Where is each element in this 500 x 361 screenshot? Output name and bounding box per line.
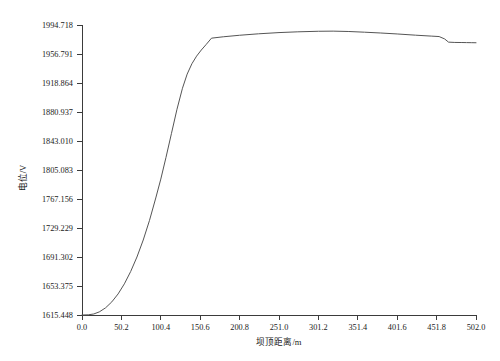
y-axis-tick-marks (77, 25, 82, 315)
y-axis-tick-label: 1956.791 (42, 50, 73, 59)
x-axis-tick-label: 301.2 (309, 323, 328, 332)
chart-page: 1615.4481653.3751691.3021729.2291767.156… (0, 0, 500, 361)
y-axis-tick-label: 1767.156 (42, 195, 73, 204)
x-axis-tick-label: 200.8 (230, 323, 249, 332)
data-series-line (82, 31, 476, 315)
x-axis-tick-label: 150.6 (191, 323, 210, 332)
y-axis-tick-label: 1880.937 (42, 108, 73, 117)
y-axis-tick-label: 1918.864 (42, 79, 74, 88)
y-axis-tick-label: 1843.010 (42, 137, 73, 146)
y-axis-tick-label: 1691.302 (42, 253, 73, 262)
x-axis-tick-label: 351.4 (348, 323, 368, 332)
y-axis-tick-label: 1653.375 (42, 282, 73, 291)
x-axis-tick-labels: 0.050.2100.4150.6200.8251.0301.2351.4401… (77, 323, 486, 332)
x-axis-tick-marks (82, 315, 476, 320)
x-axis-tick-label: 502.0 (467, 323, 486, 332)
y-axis-tick-label: 1994.718 (42, 21, 73, 30)
x-axis-tick-label: 0.0 (77, 323, 87, 332)
x-axis-tick-label: 100.4 (151, 323, 171, 332)
x-axis-title: 坝顶距离/m (256, 336, 301, 347)
y-axis-title: 电位/V (17, 164, 28, 191)
line-chart: 1615.4481653.3751691.3021729.2291767.156… (0, 0, 500, 361)
y-axis-tick-label: 1729.229 (42, 224, 73, 233)
y-axis-tick-label: 1805.083 (42, 166, 73, 175)
y-axis-tick-labels: 1615.4481653.3751691.3021729.2291767.156… (42, 21, 74, 320)
x-axis-tick-label: 50.2 (114, 323, 129, 332)
x-axis-tick-label: 451.8 (427, 323, 446, 332)
y-axis-tick-label: 1615.448 (42, 311, 73, 320)
x-axis-tick-label: 251.0 (270, 323, 289, 332)
x-axis-tick-label: 401.6 (388, 323, 407, 332)
